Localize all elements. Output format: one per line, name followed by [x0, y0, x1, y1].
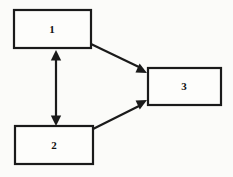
edge-node2-to-node3: [93, 100, 147, 129]
edge-node2-to-node3-arrowhead: [136, 100, 147, 110]
edge-node1-to-node2-arrowhead-down: [51, 116, 61, 127]
node-box-2-label: 2: [51, 139, 57, 151]
edge-node1-to-node3-arrowhead: [136, 63, 148, 73]
node-box-3-label: 3: [181, 80, 187, 92]
edge-node2-to-node3-line: [93, 105, 142, 129]
node-box-1-label: 1: [49, 23, 55, 35]
diagram-svg: 1 2 3: [0, 0, 233, 177]
node-box-3[interactable]: 3: [148, 68, 221, 105]
edge-node1-to-node2-arrowhead-up: [51, 50, 61, 61]
diagram-canvas: 1 2 3: [0, 0, 233, 177]
node-box-2[interactable]: 2: [15, 126, 93, 164]
edge-node1-to-node2-bidirectional: [51, 50, 61, 126]
edge-node1-to-node3: [91, 44, 147, 73]
node-box-1[interactable]: 1: [14, 10, 91, 48]
edge-node1-to-node3-line: [91, 44, 142, 68]
